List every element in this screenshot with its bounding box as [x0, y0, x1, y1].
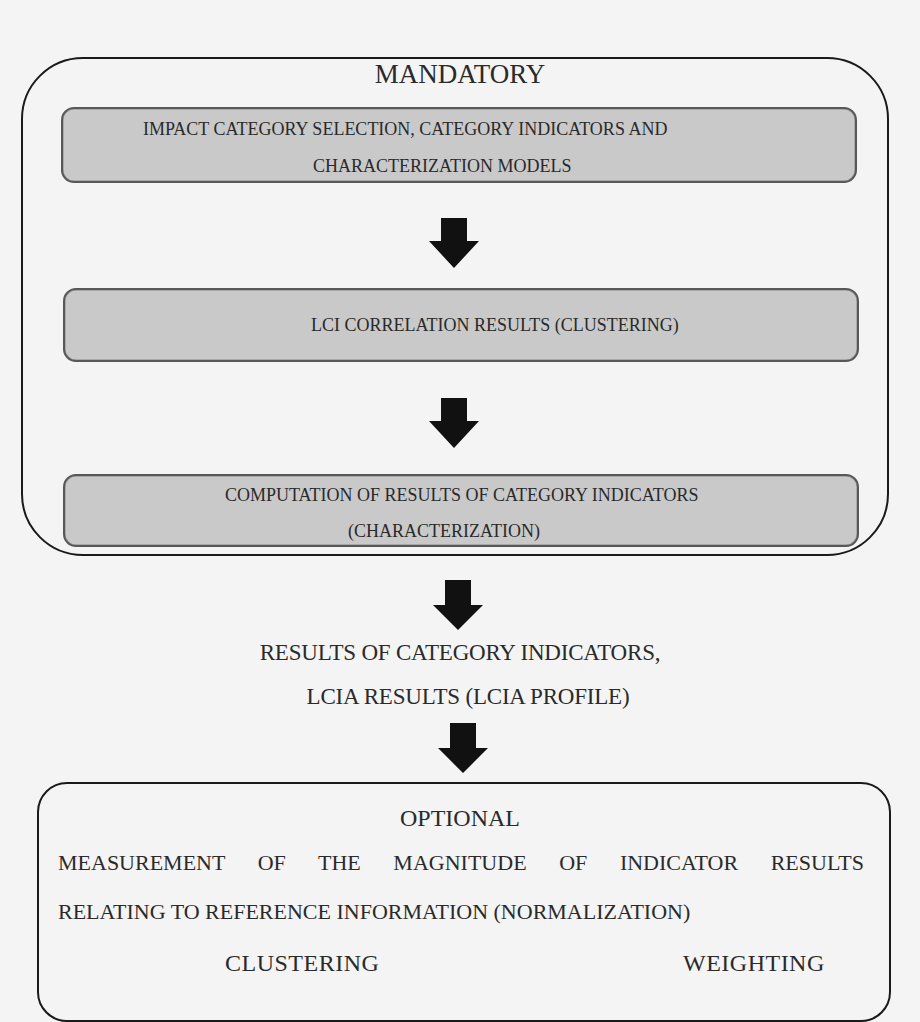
results-line-2: LCIA RESULTS (LCIA PROFILE) [8, 684, 920, 710]
down-arrow-icon [428, 398, 480, 450]
step-3-line-1: COMPUTATION OF RESULTS OF CATEGORY INDIC… [225, 485, 698, 506]
step-1-line-2: CHARACTERIZATION MODELS [313, 156, 572, 177]
mandatory-title: MANDATORY [0, 57, 920, 91]
down-arrow-icon [437, 723, 489, 775]
down-arrow-icon [428, 218, 480, 270]
step-computation-characterization: COMPUTATION OF RESULTS OF CATEGORY INDIC… [63, 474, 859, 547]
optional-weighting: WEIGHTING [683, 950, 825, 977]
optional-clustering: CLUSTERING [225, 950, 379, 977]
down-arrow-icon [432, 580, 484, 632]
step-1-line-1: IMPACT CATEGORY SELECTION, CATEGORY INDI… [143, 119, 667, 140]
step-2-line-1: LCI CORRELATION RESULTS (CLUSTERING) [311, 315, 679, 336]
optional-normalization-line-1: MEASUREMENT OF THE MAGNITUDE OF INDICATO… [58, 850, 864, 876]
step-impact-category-selection: IMPACT CATEGORY SELECTION, CATEGORY INDI… [61, 107, 857, 183]
results-line-1: RESULTS OF CATEGORY INDICATORS, [0, 640, 920, 666]
optional-normalization-line-2: RELATING TO REFERENCE INFORMATION (NORMA… [58, 899, 864, 925]
step-lci-correlation: LCI CORRELATION RESULTS (CLUSTERING) [63, 288, 859, 362]
optional-title: OPTIONAL [0, 805, 920, 832]
step-3-line-2: (CHARACTERIZATION) [348, 521, 540, 542]
